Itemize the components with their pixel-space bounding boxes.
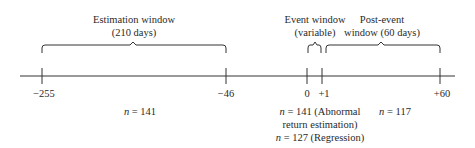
post-event-window-label: Post-event window (60 days) <box>336 13 428 39</box>
post-event-count: n = 117 <box>370 105 420 118</box>
event-count-line3: n = 127 (Regression) <box>265 131 375 144</box>
tick-label-minus-255: −255 <box>33 88 55 100</box>
event-window-brace <box>308 42 321 53</box>
estimation-count: n = 141 <box>110 105 170 118</box>
post-event-window-subtitle: window (60 days) <box>336 26 428 39</box>
post-event-window-title: Post-event <box>336 13 428 26</box>
tick-label-plus-60: +60 <box>434 88 450 100</box>
tick-label-0: 0 <box>304 88 309 100</box>
estimation-window-title: Estimation window <box>84 13 184 26</box>
estimation-window-subtitle: (210 days) <box>84 26 184 39</box>
event-count: n = 141 (Abnormal return estimation) n =… <box>265 105 375 144</box>
tick-label-minus-46: −46 <box>218 88 234 100</box>
event-count-line2: return estimation) <box>265 118 375 131</box>
estimation-window-brace <box>42 42 226 53</box>
post-event-window-brace <box>326 42 440 53</box>
event-count-line1: n = 141 (Abnormal <box>265 105 375 118</box>
tick-label-plus-1: +1 <box>318 88 329 100</box>
estimation-window-label: Estimation window (210 days) <box>84 13 184 39</box>
